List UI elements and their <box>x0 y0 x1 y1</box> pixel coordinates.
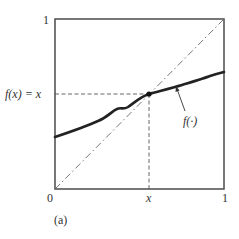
x-right-tick-label: 1 <box>222 191 228 205</box>
fixed-point-diagram: 1 f(x) = x 0 x 1 f(·) (a) <box>0 0 239 239</box>
figure-caption: (a) <box>54 213 67 227</box>
curve-label: f(·) <box>183 114 197 128</box>
y-fixed-label: f(x) = x <box>5 87 42 101</box>
x-fixed-tick-label: x <box>145 191 152 205</box>
curve-label-arrow <box>177 89 185 111</box>
origin-tick-label: 0 <box>47 191 53 205</box>
identity-line <box>55 19 224 189</box>
y-top-tick-label: 1 <box>43 13 49 27</box>
fixed-point-marker <box>146 91 151 96</box>
